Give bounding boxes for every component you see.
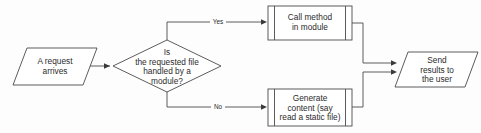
node-request-arrives-line-1: arrives [43,66,68,76]
edge-call-to-send [352,23,397,66]
node-call-method[interactable]: Call method in module [268,6,352,40]
node-generate-content-line-0: Generate [293,93,328,103]
node-send-results-line-1: results to [420,65,454,75]
node-generate-content-line-1: content (say [287,103,333,113]
edge-label-no: No [214,103,223,110]
edge-decision-no: No [167,92,267,112]
flowchart-svg: A request arrives Is the requested file … [0,0,481,133]
node-module-decision-line-0: Is [164,47,170,57]
node-call-method-line-0: Call method [288,12,333,22]
node-request-arrives[interactable]: A request arrives [13,48,97,85]
edge-request-to-decision [90,63,110,69]
node-generate-content[interactable]: Generate content (say read a static file… [268,89,352,126]
node-module-decision[interactable]: Is the requested file handled by a modul… [113,40,221,92]
node-send-results-line-2: the user [422,74,452,84]
node-call-method-line-1: in module [292,22,328,32]
node-module-decision-line-3: module? [151,76,183,86]
flowchart-canvas: A request arrives Is the requested file … [0,0,481,133]
node-send-results[interactable]: Send results to the user [395,52,478,87]
node-generate-content-line-2: read a static file) [280,112,341,122]
edge-decision-yes: Yes [167,18,267,41]
node-module-decision-line-1: the requested file [135,57,199,67]
edge-label-yes: Yes [213,18,223,25]
node-request-arrives-line-0: A request [37,56,73,66]
node-send-results-line-0: Send [427,55,447,65]
edge-generate-to-send [352,69,397,107]
node-module-decision-line-2: handled by a [143,66,191,76]
